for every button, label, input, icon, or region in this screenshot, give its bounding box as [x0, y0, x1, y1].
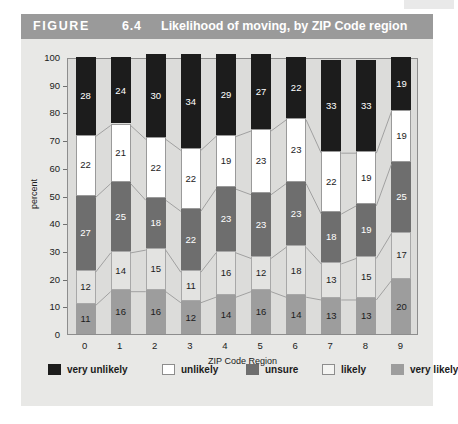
bar-segment-value: 12 — [80, 282, 91, 292]
bar-segment: 27 — [76, 196, 96, 271]
bar-segment-value: 13 — [326, 275, 337, 285]
y-tick-label: 50 — [34, 191, 60, 202]
bar-segment: 14 — [111, 251, 131, 290]
x-tick-label: 3 — [175, 340, 205, 351]
bar-segment-value: 16 — [221, 268, 232, 278]
bar-segment-value: 33 — [361, 101, 372, 111]
bar-segment-value: 23 — [291, 145, 302, 155]
x-tick-label: 7 — [315, 340, 345, 351]
bar-segment-value: 24 — [115, 86, 126, 96]
bar-segment-value: 19 — [361, 225, 372, 235]
chart-legend: very unlikelyunlikelyunsurelikelyvery li… — [21, 361, 433, 381]
bar-column: 1313182233 — [321, 59, 341, 334]
bar-segment-value: 15 — [150, 264, 161, 274]
x-tick-label: 2 — [140, 340, 170, 351]
bar-segment: 22 — [181, 148, 201, 209]
bar-segment: 23 — [286, 118, 306, 182]
legend-item[interactable]: unsure — [246, 361, 298, 377]
bar-segment-value: 11 — [186, 281, 196, 291]
bar-column: 1315191933 — [356, 59, 376, 334]
bar-segment-value: 27 — [256, 87, 267, 97]
bar-segment-value: 13 — [326, 311, 337, 321]
y-tick-label: 40 — [34, 218, 60, 229]
legend-swatch-icon — [48, 364, 61, 375]
bar-segment-value: 22 — [186, 235, 197, 245]
bar-column: 2017251919 — [391, 59, 411, 334]
bar-segment: 16 — [251, 290, 271, 334]
bar-segment: 21 — [111, 124, 131, 182]
bar-segment: 16 — [111, 290, 131, 334]
bar-segment-value: 19 — [221, 156, 232, 166]
bar-segment-value: 18 — [326, 232, 337, 242]
bar-segment-value: 14 — [221, 310, 232, 320]
bar-segment-value: 27 — [80, 228, 91, 238]
x-tick-label: 8 — [350, 340, 380, 351]
bar-segment: 23 — [286, 182, 306, 246]
bar-segment: 19 — [216, 135, 236, 188]
bar-column: 1612232327 — [251, 59, 271, 334]
bar-column: 1418232322 — [286, 59, 306, 334]
bar-segment-value: 16 — [115, 307, 126, 317]
bar-segment: 13 — [356, 298, 376, 334]
y-tick-label: 30 — [34, 246, 60, 257]
bar-segment: 20 — [391, 279, 411, 334]
x-tick-label: 1 — [105, 340, 135, 351]
x-tick-label: 4 — [210, 340, 240, 351]
bar-segment-value: 16 — [256, 307, 267, 317]
legend-swatch-icon — [391, 364, 404, 375]
legend-item[interactable]: unlikely — [162, 361, 218, 377]
bar-segment: 28 — [76, 57, 96, 135]
page-corner-artifact — [404, 0, 454, 9]
bar-segment: 11 — [181, 270, 201, 300]
bar-column: 1211222234 — [181, 59, 201, 334]
bar-segment-value: 13 — [361, 311, 372, 321]
bar-segment-value: 14 — [115, 266, 126, 276]
bar-segment: 24 — [111, 57, 131, 123]
bar-segment-value: 21 — [115, 148, 126, 158]
bar-segment: 16 — [216, 251, 236, 295]
bar-segment-value: 11 — [81, 314, 91, 324]
y-tick-label: 10 — [34, 301, 60, 312]
bar-segment: 33 — [356, 60, 376, 151]
bar-segment: 12 — [251, 256, 271, 289]
bar-segment-value: 20 — [396, 302, 407, 312]
bar-segment-value: 23 — [256, 156, 267, 166]
legend-label: very likely — [410, 364, 458, 375]
bar-segment: 12 — [76, 270, 96, 303]
bar-segment-value: 22 — [291, 83, 302, 93]
bar-segment: 11 — [76, 304, 96, 334]
bar-segment: 14 — [286, 295, 306, 334]
bar-segment: 13 — [321, 298, 341, 334]
bar-segment-value: 16 — [150, 307, 161, 317]
bar-segment: 27 — [251, 54, 271, 129]
bar-segment-value: 22 — [186, 174, 197, 184]
bar-segment-value: 17 — [396, 250, 407, 260]
bar-segment: 25 — [111, 182, 131, 251]
bar-segment: 16 — [146, 290, 166, 334]
legend-item[interactable]: likely — [322, 361, 366, 377]
bar-segment-value: 34 — [186, 97, 197, 107]
bar-segment: 19 — [356, 151, 376, 204]
bar-segment-value: 30 — [150, 91, 161, 101]
legend-item[interactable]: very likely — [391, 361, 458, 377]
legend-item[interactable]: very unlikely — [48, 361, 128, 377]
y-tick-label: 20 — [34, 274, 60, 285]
bar-segment: 25 — [391, 162, 411, 231]
bar-segment: 34 — [181, 54, 201, 148]
bar-segment-value: 12 — [186, 313, 197, 323]
bar-segment: 22 — [321, 151, 341, 212]
bar-segment: 29 — [216, 54, 236, 134]
y-tick-label: 100 — [34, 52, 60, 63]
y-tick-label: 90 — [34, 80, 60, 91]
bar-segment-value: 33 — [326, 101, 337, 111]
chart-area: percent 0102030405060708090100 111227222… — [21, 39, 433, 406]
bar-segment-value: 18 — [150, 218, 161, 228]
legend-swatch-icon — [322, 364, 335, 375]
bar-segment: 23 — [251, 193, 271, 257]
legend-label: unlikely — [181, 364, 218, 375]
bar-segment-value: 14 — [291, 310, 302, 320]
bar-segment: 22 — [76, 135, 96, 196]
figure-title-bar: FIGURE 6.4 Likelihood of moving, by ZIP … — [21, 14, 433, 39]
bar-segment: 23 — [216, 187, 236, 251]
bar-segment-value: 22 — [326, 177, 337, 187]
